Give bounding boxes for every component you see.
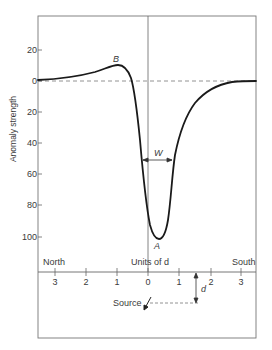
north-label: North <box>43 257 65 267</box>
depth-marker <box>194 273 198 303</box>
peak-label-b: B <box>113 54 119 64</box>
source-label: Source <box>113 298 142 308</box>
y-tick-label: 40 <box>27 138 37 148</box>
magnetic-anomaly-diagram: 20 0 20 40 60 80 100 Anomaly strength B … <box>0 0 272 350</box>
x-tick-label: 2 <box>83 277 88 287</box>
source-arrow-icon <box>144 297 151 310</box>
depth-label-d: d <box>201 284 207 294</box>
y-tick-label: 20 <box>27 107 37 117</box>
y-tick-label: 100 <box>22 232 37 242</box>
x-tick-label: 1 <box>114 277 119 287</box>
plot-frame <box>38 16 256 338</box>
width-marker <box>143 158 172 162</box>
y-tick-label: 60 <box>27 169 37 179</box>
trough-label-a: A <box>153 241 160 251</box>
units-label: Units of d <box>131 257 169 267</box>
y-axis-ticks <box>38 50 42 237</box>
x-tick-label: 3 <box>52 277 57 287</box>
width-label-w: W <box>154 148 164 158</box>
y-tick-label: 80 <box>27 200 37 210</box>
y-tick-label: 0 <box>32 76 37 86</box>
x-tick-label: 3 <box>238 277 243 287</box>
x-axis-tick-labels: 3 2 1 0 1 2 3 <box>52 277 243 287</box>
y-axis-tick-labels: 20 0 20 40 60 80 100 <box>22 45 37 242</box>
x-tick-label: 0 <box>145 277 150 287</box>
x-tick-label: 1 <box>176 277 181 287</box>
y-tick-label: 20 <box>27 45 37 55</box>
x-tick-label: 2 <box>208 277 213 287</box>
south-label: South <box>232 257 256 267</box>
y-axis-label: Anomaly strength <box>8 96 18 162</box>
anomaly-curve <box>38 65 256 239</box>
